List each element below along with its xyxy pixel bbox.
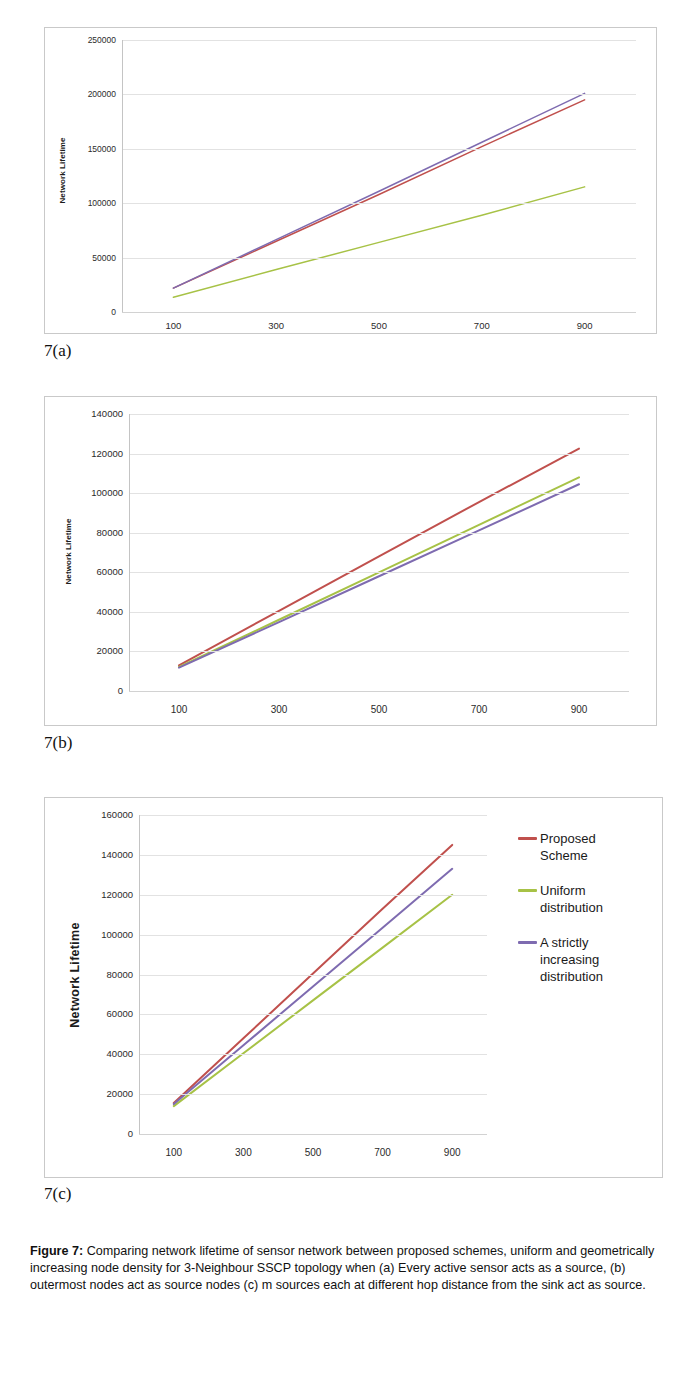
x-axis-tick-label: 500 [349,320,409,331]
legend-item[interactable]: A strictly increasing distribution [518,934,658,985]
gridline [129,691,629,692]
x-axis-tick-label: 900 [555,320,615,331]
series-line [179,484,579,667]
gridline [122,258,636,259]
y-axis-line [139,815,140,1134]
y-axis-tick-label: 40000 [63,607,123,617]
series-line [174,895,452,1106]
y-axis-tick-label: 160000 [73,810,133,820]
y-axis-line [129,414,130,691]
chart-c-frame: Network Lifetime Proposed SchemeUniform … [44,797,663,1178]
y-axis-tick-label: 0 [56,307,116,317]
x-axis-tick-label: 100 [143,320,203,331]
x-axis-tick-label: 300 [213,1147,273,1158]
y-axis-tick-label: 140000 [63,409,123,419]
x-axis-tick-label: 700 [353,1147,413,1158]
y-axis-tick-label: 100000 [73,930,133,940]
y-axis-tick-label: 200000 [56,89,116,99]
gridline [139,1094,487,1095]
chart-b-series-lines [45,397,656,725]
sublabel-7a: 7(a) [44,341,71,361]
y-axis-tick-label: 250000 [56,35,116,45]
chart-a-plot-wrap: Network Lifetime 05000010000015000020000… [45,28,656,333]
legend-label: Uniform distribution [540,882,603,916]
gridline [129,572,629,573]
legend-color-swatch-icon [518,941,537,944]
y-axis-tick-label: 20000 [63,646,123,656]
chart-c-plot-wrap: Network Lifetime Proposed SchemeUniform … [45,798,662,1177]
gridline [122,40,636,41]
figure-page: Network Lifetime 05000010000015000020000… [0,0,699,1374]
series-line [174,869,452,1104]
chart-c-legend: Proposed SchemeUniform distributionA str… [518,830,658,1003]
figure-caption-label: Figure 7: [30,1244,83,1258]
y-axis-tick-label: 100000 [56,198,116,208]
gridline [129,612,629,613]
gridline [139,935,487,936]
x-axis-tick-label: 900 [422,1147,482,1158]
legend-item[interactable]: Uniform distribution [518,882,658,916]
gridline [139,1054,487,1055]
gridline [139,975,487,976]
gridline [122,312,636,313]
y-axis-line [122,40,123,312]
gridline [122,94,636,95]
chart-a-series-lines [45,28,656,333]
y-axis-tick-label: 140000 [73,850,133,860]
gridline [129,533,629,534]
chart-a-frame: Network Lifetime 05000010000015000020000… [44,27,657,334]
y-axis-tick-label: 50000 [56,253,116,263]
x-axis-tick-label: 700 [452,320,512,331]
figure-caption-text: Comparing network lifetime of sensor net… [30,1244,654,1292]
legend-label: A strictly increasing distribution [540,934,603,985]
sublabel-7b: 7(b) [44,733,72,753]
chart-b-frame: Network Lifetime 02000040000600008000010… [44,396,657,726]
legend-label: Proposed Scheme [540,830,596,864]
x-axis-tick-label: 300 [249,704,309,715]
x-axis-tick-label: 900 [549,704,609,715]
gridline [122,203,636,204]
sublabel-7c: 7(c) [44,1184,71,1204]
gridline [139,815,487,816]
gridline [122,149,636,150]
x-axis-tick-label: 100 [144,1147,204,1158]
figure-caption: Figure 7: Comparing network lifetime of … [30,1243,678,1295]
y-axis-tick-label: 0 [73,1129,133,1139]
gridline [129,454,629,455]
x-axis-tick-label: 500 [349,704,409,715]
gridline [129,493,629,494]
y-axis-tick-label: 40000 [73,1049,133,1059]
y-axis-tick-label: 60000 [63,567,123,577]
gridline [129,651,629,652]
legend-item[interactable]: Proposed Scheme [518,830,658,864]
y-axis-tick-label: 150000 [56,144,116,154]
legend-color-swatch-icon [518,837,537,840]
gridline [139,1134,487,1135]
x-axis-tick-label: 500 [283,1147,343,1158]
gridline [139,855,487,856]
y-axis-tick-label: 0 [63,686,123,696]
y-axis-tick-label: 100000 [63,488,123,498]
y-axis-tick-label: 80000 [63,528,123,538]
chart-b-plot-wrap: Network Lifetime 02000040000600008000010… [45,397,656,725]
x-axis-tick-label: 700 [449,704,509,715]
y-axis-tick-label: 80000 [73,970,133,980]
y-axis-tick-label: 120000 [73,890,133,900]
gridline [139,1014,487,1015]
x-axis-tick-label: 300 [246,320,306,331]
legend-color-swatch-icon [518,889,537,892]
gridline [129,414,629,415]
y-axis-tick-label: 60000 [73,1009,133,1019]
y-axis-tick-label: 20000 [73,1089,133,1099]
gridline [139,895,487,896]
y-axis-tick-label: 120000 [63,449,123,459]
series-line [173,93,584,288]
x-axis-tick-label: 100 [149,704,209,715]
series-line [179,449,579,666]
